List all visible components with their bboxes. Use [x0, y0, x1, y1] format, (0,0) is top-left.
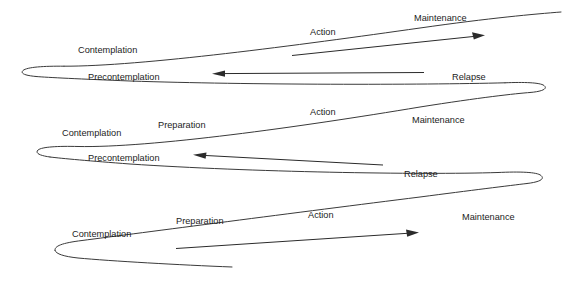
- label-action-loop1: Action: [310, 27, 336, 37]
- label-contemplation-loop3: Contemplation: [72, 229, 131, 239]
- label-contemplation-loop1: Contemplation: [78, 45, 137, 55]
- spiral-segment-right-turn-lower: [498, 172, 542, 183]
- backward-arrow-middle-line: [200, 155, 383, 165]
- backward-arrow-top: [212, 71, 424, 77]
- forward-arrow-bottom: [176, 230, 419, 249]
- stages-of-change-spiral-diagram: Maintenance Action Contemplation Precont…: [0, 0, 563, 281]
- label-relapse-loop1: Relapse: [452, 72, 486, 82]
- forward-arrow-top-head: [472, 32, 485, 39]
- label-contemplation-loop2: Contemplation: [62, 128, 121, 138]
- forward-arrow-bottom-head: [406, 230, 419, 237]
- spiral-segment-left-turn-top: [22, 66, 64, 76]
- spiral-segment-loop1-rise: [64, 12, 561, 66]
- backward-arrow-middle: [193, 153, 383, 165]
- label-group: Maintenance Action Contemplation Precont…: [62, 13, 515, 239]
- label-relapse-loop2: Relapse: [404, 169, 438, 179]
- label-precontemplation-loop2: Precontemplation: [88, 153, 160, 163]
- spiral-segment-right-turn-upper: [505, 82, 545, 92]
- label-preparation-loop3: Preparation: [176, 216, 224, 226]
- label-preparation-loop2: Preparation: [158, 120, 206, 130]
- backward-arrow-middle-head: [193, 153, 207, 159]
- label-action-loop3: Action: [308, 210, 334, 220]
- forward-arrow-top-line: [292, 36, 478, 56]
- backward-arrow-top-head: [212, 71, 225, 77]
- spiral-segment-left-turn-middle: [37, 146, 78, 157]
- spiral-segment-bottom-tail: [55, 251, 232, 268]
- label-precontemplation-loop1: Precontemplation: [88, 72, 160, 82]
- label-action-loop2: Action: [310, 107, 336, 117]
- label-maintenance-loop2: Maintenance: [412, 115, 465, 125]
- label-maintenance-loop1: Maintenance: [414, 13, 467, 23]
- backward-arrow-top-line: [219, 73, 424, 74]
- forward-arrow-bottom-line: [176, 233, 412, 249]
- label-maintenance-loop3: Maintenance: [462, 212, 515, 222]
